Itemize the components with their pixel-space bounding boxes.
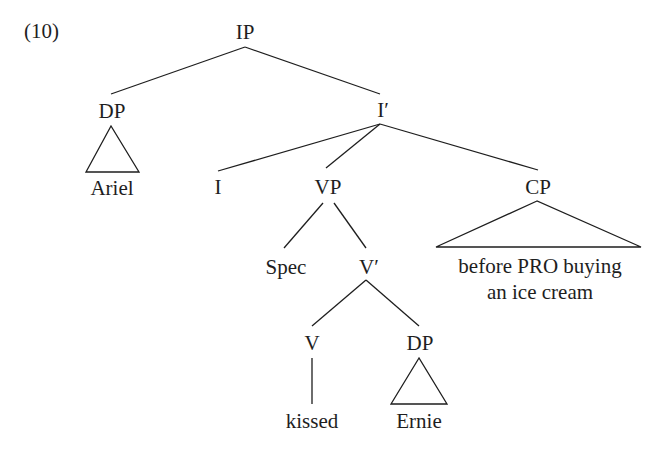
- node-dp-object: DP: [407, 333, 434, 354]
- node-ip: IP: [236, 22, 255, 43]
- example-number: (10): [24, 21, 59, 42]
- node-vp: VP: [315, 177, 342, 198]
- cp-text-line2: an ice cream: [487, 282, 593, 303]
- leaf-ernie: Ernie: [396, 411, 441, 432]
- leaf-ariel: Ariel: [90, 178, 133, 199]
- node-cp: CP: [525, 177, 551, 198]
- node-v: V: [304, 333, 319, 354]
- leaf-kissed: kissed: [286, 411, 339, 432]
- node-dp-subject: DP: [99, 101, 126, 122]
- node-v-bar: V′: [359, 257, 379, 278]
- cp-text-line1: before PRO buying: [458, 256, 621, 277]
- node-i-bar: I′: [377, 100, 389, 121]
- node-i: I: [215, 177, 222, 198]
- node-spec: Spec: [266, 257, 307, 278]
- tree-branches: [0, 0, 669, 458]
